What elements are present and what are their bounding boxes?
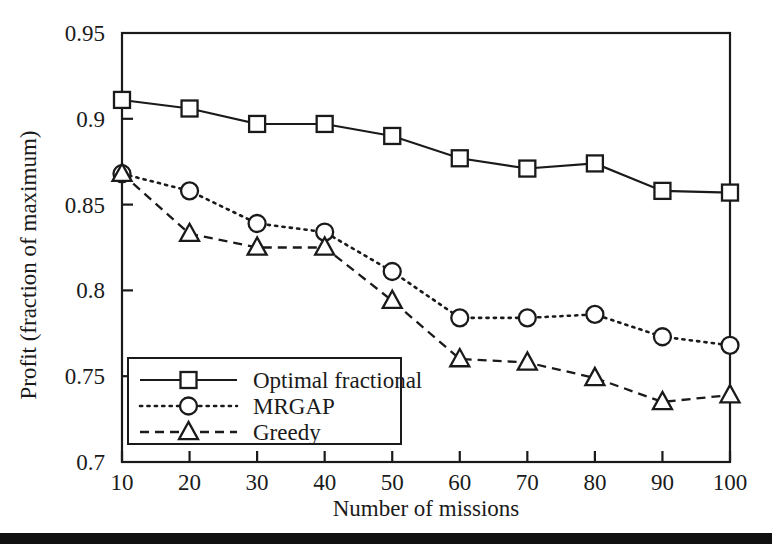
x-tick-label-100: 100: [713, 470, 748, 495]
x-tick-label-20: 20: [178, 470, 201, 495]
chart-legend: Optimal fractionalMRGAPGreedy: [128, 358, 422, 445]
y-tick-label-0.85: 0.85: [65, 193, 105, 218]
x-tick-label-30: 30: [246, 470, 269, 495]
figure-panel: 0.70.750.80.850.90.95 102030405060708090…: [0, 0, 772, 548]
y-tick-label-0.9: 0.9: [76, 107, 105, 132]
datapoint-greedy-40: [315, 238, 334, 255]
series-line-mrgap: [122, 174, 730, 346]
legend-label-greedy: Greedy: [253, 420, 321, 445]
x-tick-label-10: 10: [111, 470, 134, 495]
profit-vs-missions-line-chart: 0.70.750.80.850.90.95 102030405060708090…: [0, 0, 772, 548]
legend-marker-optimal-fractional: [181, 372, 197, 388]
datapoint-optimal-fractional-90: [654, 183, 670, 199]
y-tick-label-0.7: 0.7: [76, 450, 105, 475]
x-axis-ticks: [122, 451, 730, 462]
datapoint-mrgap-30: [249, 215, 266, 232]
datapoint-optimal-fractional-20: [182, 101, 198, 117]
x-tick-label-40: 40: [313, 470, 336, 495]
datapoint-optimal-fractional-60: [452, 150, 468, 166]
datapoint-greedy-70: [518, 352, 537, 369]
datapoint-greedy-50: [383, 291, 402, 308]
datapoint-optimal-fractional-70: [519, 161, 535, 177]
x-tick-label-70: 70: [516, 470, 539, 495]
datapoint-optimal-fractional-30: [249, 116, 265, 132]
x-tick-label-90: 90: [651, 470, 674, 495]
legend-label-mrgap: MRGAP: [253, 394, 335, 419]
datapoint-greedy-100: [721, 385, 740, 402]
page-footer-rule: [0, 533, 772, 544]
x-axis-title: Number of missions: [333, 496, 520, 521]
datapoint-mrgap-100: [722, 337, 739, 354]
x-tick-label-60: 60: [448, 470, 471, 495]
series-line-optimal-fractional: [122, 100, 730, 193]
datapoint-optimal-fractional-100: [722, 185, 738, 201]
datapoint-mrgap-60: [451, 309, 468, 326]
y-tick-label-0.75: 0.75: [65, 364, 105, 389]
datapoint-optimal-fractional-40: [317, 116, 333, 132]
datapoint-mrgap-80: [586, 306, 603, 323]
x-axis-tick-labels: 102030405060708090100: [111, 470, 748, 495]
legend-label-optimal-fractional: Optimal fractional: [253, 368, 422, 393]
datapoint-mrgap-20: [181, 182, 198, 199]
y-axis-title: Profit (fraction of maximum): [16, 131, 41, 400]
datapoint-optimal-fractional-10: [114, 92, 130, 108]
series-lines-group: [122, 100, 730, 402]
datapoint-optimal-fractional-80: [587, 155, 603, 171]
y-axis-tick-labels: 0.70.750.80.850.90.95: [65, 21, 105, 475]
y-axis-ticks: [122, 119, 133, 376]
legend-marker-mrgap: [180, 398, 197, 415]
x-tick-label-50: 50: [381, 470, 404, 495]
y-tick-label-0.95: 0.95: [65, 21, 105, 46]
datapoint-mrgap-70: [519, 309, 536, 326]
datapoint-mrgap-90: [654, 328, 671, 345]
datapoint-greedy-60: [450, 349, 469, 366]
datapoint-mrgap-50: [384, 263, 401, 280]
y-tick-label-0.8: 0.8: [76, 278, 105, 303]
datapoint-optimal-fractional-50: [384, 128, 400, 144]
x-tick-label-80: 80: [583, 470, 606, 495]
